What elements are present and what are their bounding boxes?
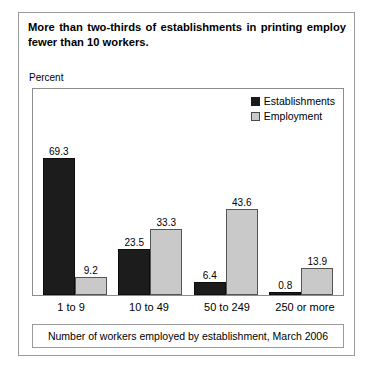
bar-wrap-employment-1: 9.2 xyxy=(75,89,107,295)
bar-wrap-establishments-3: 6.4 xyxy=(194,89,226,295)
bar-establishments-1 xyxy=(43,158,75,295)
bar-group-250-or-more: 0.8 13.9 xyxy=(264,89,340,295)
bar-group-1-to-9: 69.3 9.2 xyxy=(37,89,113,295)
bar-wrap-employment-2: 33.3 xyxy=(150,89,182,295)
bar-employment-1 xyxy=(75,277,107,295)
bar-wrap-employment-4: 13.9 xyxy=(301,89,333,295)
chart-title: More than two-thirds of establishments i… xyxy=(28,20,346,50)
chart-figure: More than two-thirds of establishments i… xyxy=(18,12,355,356)
bar-value-employment-4: 13.9 xyxy=(308,256,327,267)
bar-establishments-2 xyxy=(118,249,150,295)
bar-wrap-establishments-2: 23.5 xyxy=(118,89,150,295)
bar-establishments-3 xyxy=(194,282,226,295)
footer-caption: Number of workers employed by establishm… xyxy=(32,324,344,348)
bar-group-10-to-49: 23.5 33.3 xyxy=(113,89,189,295)
bar-establishments-4 xyxy=(269,292,301,295)
bar-value-establishments-4: 0.8 xyxy=(278,280,292,291)
bar-value-establishments-1: 69.3 xyxy=(49,146,68,157)
bar-value-employment-1: 9.2 xyxy=(84,265,98,276)
bar-value-establishments-3: 6.4 xyxy=(203,270,217,281)
bar-groups: 69.3 9.2 23.5 33.3 xyxy=(33,89,343,295)
plot-area: Establishments Employment 69.3 9.2 xyxy=(32,88,344,296)
x-axis-label-3: 50 to 249 xyxy=(188,301,266,313)
bar-wrap-establishments-1: 69.3 xyxy=(43,89,75,295)
y-axis-label: Percent xyxy=(29,72,63,83)
bar-value-employment-2: 33.3 xyxy=(157,217,176,228)
bar-wrap-establishments-4: 0.8 xyxy=(269,89,301,295)
x-axis-label-1: 1 to 9 xyxy=(32,301,110,313)
bar-employment-2 xyxy=(150,229,182,295)
x-axis-category-labels: 1 to 9 10 to 49 50 to 249 250 or more xyxy=(32,301,344,313)
bar-value-establishments-2: 23.5 xyxy=(125,237,144,248)
bar-employment-3 xyxy=(226,209,258,295)
bar-value-employment-3: 43.6 xyxy=(232,197,251,208)
bar-wrap-employment-3: 43.6 xyxy=(226,89,258,295)
bar-employment-4 xyxy=(301,268,333,295)
x-axis-label-2: 10 to 49 xyxy=(110,301,188,313)
bar-group-50-to-249: 6.4 43.6 xyxy=(188,89,264,295)
x-axis-label-4: 250 or more xyxy=(266,301,344,313)
